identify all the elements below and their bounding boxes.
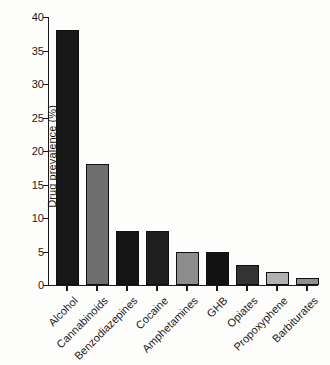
x-tick-label: GHB — [205, 295, 230, 320]
x-tick-mark — [306, 286, 307, 291]
x-tick-mark — [126, 286, 127, 291]
bar — [206, 252, 229, 286]
y-tick-label: 10 — [32, 213, 44, 224]
x-tick-mark — [246, 286, 247, 291]
bar — [56, 30, 79, 285]
y-tick-label: 25 — [32, 112, 44, 123]
y-tick-label: 30 — [32, 79, 44, 90]
bar — [146, 231, 169, 285]
y-tick-label: 15 — [32, 179, 44, 190]
x-tick-mark — [96, 286, 97, 291]
y-axis-title: Drug prevalence (%) — [46, 105, 58, 208]
bar — [266, 272, 289, 285]
plot-area: 0510152025303540 AlcoholCannabinoidsBenz… — [48, 17, 318, 285]
chart-figure: 0510152025303540 AlcoholCannabinoidsBenz… — [0, 0, 330, 365]
x-tick-mark — [156, 286, 157, 291]
x-tick-mark — [186, 286, 187, 291]
y-tick-label: 20 — [32, 146, 44, 157]
x-tick-mark — [216, 286, 217, 291]
bar — [86, 164, 109, 285]
bar — [236, 265, 259, 285]
x-tick-label: Amphetamines — [140, 295, 200, 355]
x-tick-mark — [66, 286, 67, 291]
x-tick-mark — [276, 286, 277, 291]
bar — [116, 231, 139, 285]
y-tick-label: 0 — [38, 280, 44, 291]
y-tick-label: 40 — [32, 12, 44, 23]
bar — [176, 252, 199, 286]
y-tick-label: 5 — [38, 246, 44, 257]
y-tick-label: 35 — [32, 45, 44, 56]
bar — [296, 278, 319, 285]
